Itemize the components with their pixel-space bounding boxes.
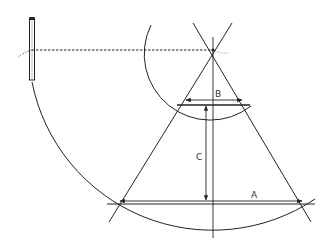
large-arc [32, 82, 315, 230]
diagram-canvas: B C A [0, 0, 332, 246]
apex-point [211, 48, 214, 51]
string-line [18, 50, 228, 57]
label-B: B [215, 89, 221, 99]
label-C: C [196, 152, 202, 162]
dimension-A: A [120, 190, 302, 201]
cone-layout-diagram: B C A [0, 0, 332, 246]
small-arc [144, 25, 251, 120]
pencil-icon [30, 17, 35, 80]
label-A: A [251, 190, 258, 200]
cone-left-edge [109, 23, 232, 222]
